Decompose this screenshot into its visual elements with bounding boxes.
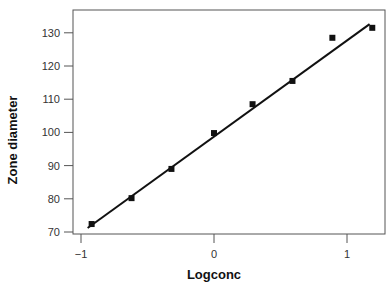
y-tick-label: 120	[42, 60, 60, 72]
y-axis-title: Zone diameter	[5, 96, 20, 185]
data-point	[329, 35, 335, 41]
plot-frame	[73, 10, 385, 234]
y-axis-ticks: 708090100110120130	[42, 27, 73, 238]
x-axis-ticks: −101	[75, 234, 350, 260]
y-tick-label: 100	[42, 126, 60, 138]
data-point	[168, 166, 174, 172]
x-tick-label: 1	[344, 248, 350, 260]
data-point	[211, 130, 217, 136]
y-tick-label: 110	[42, 93, 60, 105]
x-tick-label: −1	[75, 248, 88, 260]
x-tick-label: 0	[211, 248, 217, 260]
data-point	[129, 195, 135, 201]
scatter-chart: 708090100110120130 −101 Logconc Zone dia…	[0, 0, 391, 290]
data-point	[369, 25, 375, 31]
data-point	[250, 101, 256, 107]
y-tick-label: 90	[48, 160, 60, 172]
data-points	[89, 25, 376, 227]
y-tick-label: 80	[48, 193, 60, 205]
y-tick-label: 70	[48, 226, 60, 238]
x-axis-title: Logconc	[187, 267, 241, 282]
y-tick-label: 130	[42, 27, 60, 39]
data-point	[89, 221, 95, 227]
data-point	[289, 78, 295, 84]
